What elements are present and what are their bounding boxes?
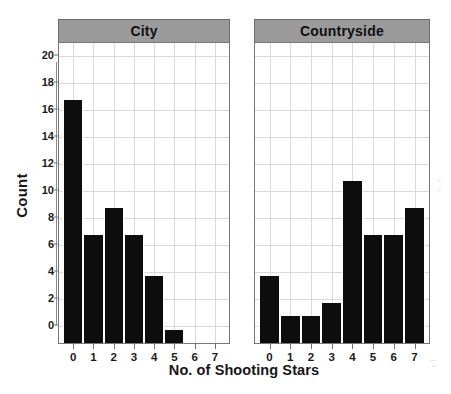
histogram-bar (363, 235, 384, 343)
y-axis-tick-labels: 02468101214161820 (30, 0, 54, 394)
gridline-horizontal (59, 110, 229, 111)
x-tick-mark (332, 344, 333, 349)
y-tick-label: 14 (30, 130, 54, 142)
panel-header-city: City (58, 19, 230, 43)
x-tick-mark (93, 344, 94, 349)
y-tick-label: 16 (30, 103, 54, 115)
y-axis-line (56, 62, 57, 325)
x-axis-title: No. of Shooting Stars (58, 362, 430, 378)
x-tick-mark (195, 344, 196, 349)
gridline-horizontal (255, 56, 429, 57)
panel-header-countryside: Countryside (254, 19, 430, 43)
scan-artifact (437, 180, 441, 181)
histogram-figure: Count 02468101214161820 City Countryside… (0, 0, 451, 394)
gridline-horizontal (59, 218, 229, 219)
panel-header-city-label: City (130, 23, 157, 39)
x-tick-mark (114, 344, 115, 349)
x-tick-mark (394, 344, 395, 349)
y-tick-label: 20 (30, 49, 54, 61)
x-tick-mark (134, 344, 135, 349)
histogram-bar (280, 316, 301, 343)
plot-area-city (58, 42, 230, 344)
gridline-horizontal (59, 56, 229, 57)
x-axis-ticks-city: 01234567 (58, 344, 230, 364)
histogram-bar (321, 303, 342, 343)
x-axis-ticks-countryside: 01234567 (254, 344, 430, 364)
facet-panel-countryside: Countryside (254, 19, 430, 344)
x-tick-mark (352, 344, 353, 349)
gridline-vertical (332, 43, 333, 343)
x-tick-mark (174, 344, 175, 349)
x-tick-mark (290, 344, 291, 349)
histogram-bar (83, 235, 103, 343)
plot-area-countryside (254, 42, 430, 344)
gridline-vertical (290, 43, 291, 343)
gridline-horizontal (255, 110, 429, 111)
gridline-horizontal (255, 164, 429, 165)
scan-artifact (430, 360, 436, 361)
scan-artifact (438, 190, 441, 191)
histogram-bar (144, 276, 164, 343)
x-tick-mark (373, 344, 374, 349)
x-tick-mark (311, 344, 312, 349)
x-tick-mark (415, 344, 416, 349)
gridline-horizontal (59, 164, 229, 165)
gridline-vertical (174, 43, 175, 343)
y-tick-label: 18 (30, 76, 54, 88)
gridline-horizontal (255, 137, 429, 138)
y-tick-label: 12 (30, 157, 54, 169)
histogram-bar (164, 330, 184, 343)
gridline-vertical (195, 43, 196, 343)
gridline-vertical (215, 43, 216, 343)
histogram-bar (124, 235, 144, 343)
histogram-bar (301, 316, 322, 343)
gridline-vertical (311, 43, 312, 343)
y-tick-label: 10 (30, 184, 54, 196)
x-tick-mark (154, 344, 155, 349)
x-tick-mark (270, 344, 271, 349)
facet-panel-city: City (58, 19, 230, 344)
histogram-bar (404, 208, 425, 343)
histogram-bar (63, 100, 83, 343)
gridline-horizontal (59, 137, 229, 138)
gridline-horizontal (59, 191, 229, 192)
scan-artifact (432, 366, 436, 367)
x-tick-mark (73, 344, 74, 349)
y-tick-label: 2 (30, 292, 54, 304)
histogram-bar (259, 276, 280, 343)
y-tick-label: 4 (30, 265, 54, 277)
histogram-bar (383, 235, 404, 343)
y-tick-label: 8 (30, 211, 54, 223)
y-tick-label: 6 (30, 238, 54, 250)
histogram-bar (342, 181, 363, 343)
panel-header-countryside-label: Countryside (300, 23, 384, 39)
x-tick-mark (215, 344, 216, 349)
y-axis-title-text: Count (13, 173, 30, 217)
gridline-horizontal (255, 83, 429, 84)
gridline-horizontal (59, 83, 229, 84)
y-tick-label: 0 (30, 319, 54, 331)
histogram-bar (104, 208, 124, 343)
